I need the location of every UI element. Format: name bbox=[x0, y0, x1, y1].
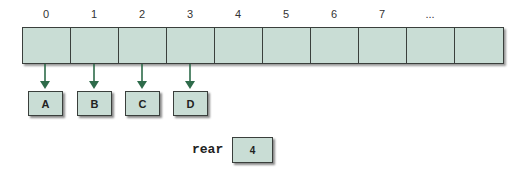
index-label-0: 0 bbox=[22, 8, 70, 20]
index-label-1: 1 bbox=[70, 8, 118, 20]
array-cell-9 bbox=[454, 27, 504, 64]
element-node-a: A bbox=[28, 91, 63, 116]
array-cell-2 bbox=[118, 27, 168, 64]
element-node-d: D bbox=[173, 91, 208, 116]
array-cell-6 bbox=[310, 27, 360, 64]
arrow-down-icon bbox=[39, 64, 51, 90]
array-cell-0 bbox=[22, 27, 72, 64]
element-node-b: B bbox=[77, 91, 112, 116]
array-cell-4 bbox=[214, 27, 264, 64]
index-label-5: 5 bbox=[262, 8, 310, 20]
index-label-2: 2 bbox=[118, 8, 166, 20]
arrow-down-icon bbox=[136, 64, 148, 90]
array-cell-8 bbox=[406, 27, 456, 64]
index-label-ellipsis: ... bbox=[406, 8, 454, 20]
element-node-c: C bbox=[125, 91, 160, 116]
queue-array bbox=[22, 27, 504, 64]
array-cell-5 bbox=[262, 27, 312, 64]
index-label-4: 4 bbox=[214, 8, 262, 20]
index-label-6: 6 bbox=[310, 8, 358, 20]
array-cell-7 bbox=[358, 27, 408, 64]
array-cell-3 bbox=[166, 27, 216, 64]
rear-label: rear bbox=[192, 142, 223, 157]
rear-value-box: 4 bbox=[232, 137, 273, 163]
array-cell-1 bbox=[70, 27, 120, 64]
arrow-down-icon bbox=[88, 64, 100, 90]
index-label-3: 3 bbox=[166, 8, 214, 20]
arrow-down-icon bbox=[184, 64, 196, 90]
index-label-7: 7 bbox=[358, 8, 406, 20]
